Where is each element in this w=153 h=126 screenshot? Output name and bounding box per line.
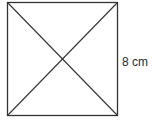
side-length-label: 8 cm [122,55,148,69]
